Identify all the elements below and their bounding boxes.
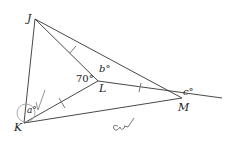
segment-JM bbox=[35, 19, 182, 98]
diagram-canvas: J K L M 70° b° c° a° bbox=[0, 0, 232, 144]
segment-KM bbox=[24, 98, 182, 123]
angle-c: c° bbox=[183, 86, 194, 97]
label-J: J bbox=[25, 12, 32, 25]
tick-JL bbox=[70, 46, 76, 53]
pencil-check-K bbox=[36, 90, 45, 110]
ray-LM bbox=[98, 81, 222, 98]
angle-70: 70° bbox=[76, 73, 94, 84]
angle-a: a° bbox=[27, 105, 37, 115]
segment-JL bbox=[35, 19, 98, 81]
label-L: L bbox=[98, 82, 106, 95]
label-M: M bbox=[177, 101, 190, 114]
pencil-handwriting bbox=[114, 118, 135, 130]
tick-LM bbox=[139, 83, 141, 92]
label-K: K bbox=[13, 121, 23, 134]
angle-b: b° bbox=[99, 63, 110, 74]
geometry-diagram: J K L M 70° b° c° a° bbox=[0, 0, 232, 144]
